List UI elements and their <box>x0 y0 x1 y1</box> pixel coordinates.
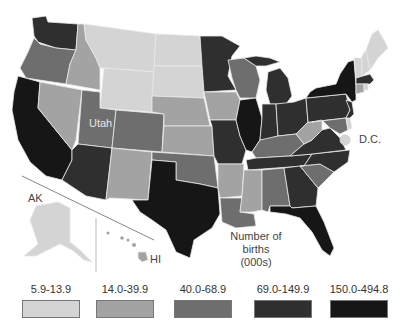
state-AK[interactable] <box>24 202 92 262</box>
legend-title-line2: births (000s) <box>240 243 271 268</box>
state-MI[interactable] <box>266 68 292 104</box>
legend-label: 5.9-13.9 <box>14 282 88 296</box>
us-choropleth-map <box>0 0 401 275</box>
legend-label: 150.0-494.8 <box>322 282 396 296</box>
legend-item: 69.0-149.9 <box>246 282 320 318</box>
legend-label: 69.0-149.9 <box>246 282 320 296</box>
state-IN[interactable] <box>260 104 278 140</box>
label-utah: Utah <box>89 117 112 129</box>
legend-swatch <box>254 300 312 318</box>
state-DC[interactable] <box>340 135 350 145</box>
state-HI[interactable] <box>107 232 149 263</box>
legend-swatch <box>96 300 154 318</box>
state-AR[interactable] <box>218 164 244 198</box>
legend-item: 5.9-13.9 <box>14 282 88 318</box>
state-IA[interactable] <box>204 92 240 120</box>
legend: 5.9-13.9 14.0-39.9 40.0-68.9 69.0-149.9 … <box>0 282 401 322</box>
state-KS[interactable] <box>162 126 214 156</box>
legend-swatch <box>174 300 232 318</box>
legend-swatch <box>22 300 80 318</box>
state-ME[interactable] <box>366 30 388 70</box>
state-SD[interactable] <box>152 66 204 98</box>
legend-label: 40.0-68.9 <box>166 282 240 296</box>
state-ND[interactable] <box>154 34 202 66</box>
label-hawaii: HI <box>150 253 161 265</box>
state-RI[interactable] <box>364 84 368 90</box>
legend-item: 14.0-39.9 <box>88 282 162 318</box>
label-alaska: AK <box>28 192 43 204</box>
legend-title-line1: Number of <box>230 230 281 242</box>
state-CO[interactable] <box>112 110 164 152</box>
map-legend-title: Number of births (000s) <box>226 230 286 269</box>
state-NM[interactable] <box>106 148 152 200</box>
label-dc: D.C. <box>359 133 381 145</box>
legend-swatch <box>330 300 388 318</box>
state-CT[interactable] <box>356 84 364 94</box>
state-WY[interactable] <box>100 68 154 112</box>
legend-item: 150.0-494.8 <box>322 282 396 318</box>
state-PA[interactable] <box>306 94 350 122</box>
state-MS[interactable] <box>240 170 262 212</box>
state-NY[interactable] <box>306 60 356 102</box>
legend-label: 14.0-39.9 <box>88 282 162 296</box>
legend-item: 40.0-68.9 <box>166 282 240 318</box>
